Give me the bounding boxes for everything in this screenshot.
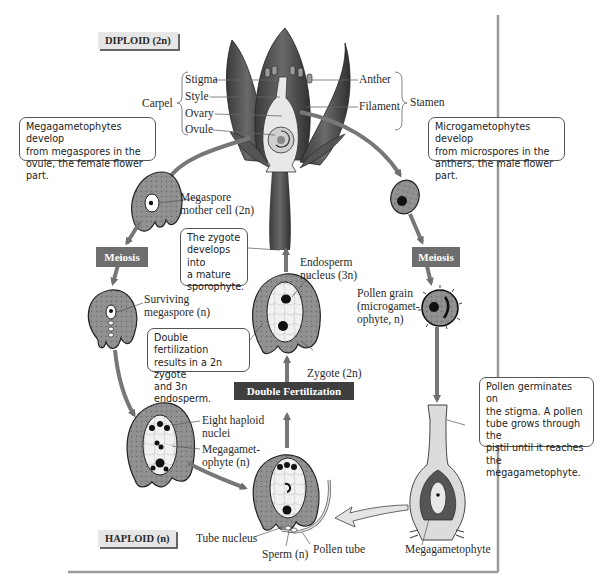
label-anther: Anther xyxy=(359,73,391,86)
label-endosperm-nucleus-2: nucleus (3n) xyxy=(300,269,357,282)
label-zygote: Zygote (2n) xyxy=(307,367,362,380)
label-eight-haploid-nuclei-2: nuclei xyxy=(202,427,230,440)
label-megaspore-mother-cell-2: mother cell (2n) xyxy=(180,204,254,217)
arrow-flower-to-ovule xyxy=(168,138,250,180)
label-megagametophyte-n-2: ophyte (n) xyxy=(202,456,250,469)
label-filament: Filament xyxy=(359,100,400,113)
double-fertilization-box: Double Fertilization xyxy=(234,382,354,400)
label-endosperm-nucleus-1: Endosperm xyxy=(300,256,352,269)
callout-megagametophytes: Megagametophytes develop from megaspores… xyxy=(19,117,156,161)
arrow-pistil-to-ovule xyxy=(335,505,408,527)
pistil-with-pollen-tube xyxy=(410,405,465,540)
label-eight-haploid-nuclei-1: Eight haploid xyxy=(202,414,264,427)
label-pollen-tube: Pollen tube xyxy=(313,543,365,556)
ovule-fertilization xyxy=(253,455,329,532)
life-cycle-artwork xyxy=(0,0,607,587)
label-surviving-megaspore-1: Surviving xyxy=(144,293,189,306)
label-pollen-grain-3: ophyte, n) xyxy=(357,313,404,326)
haploid-tag: HAPLOID (n) xyxy=(98,530,176,547)
meiosis-box-right: Meiosis xyxy=(412,247,460,267)
label-megaspore-mother-cell-1: Megaspore xyxy=(180,191,231,204)
diploid-tag: DIPLOID (2n) xyxy=(98,32,178,49)
label-ovary: Ovary xyxy=(185,107,214,120)
label-carpel: Carpel xyxy=(142,97,173,110)
label-stigma: Stigma xyxy=(185,73,218,86)
label-pollen-grain-1: Pollen grain xyxy=(357,287,413,300)
callout-microgametophytes: Microgametophytes develop from microspor… xyxy=(428,117,565,161)
label-surviving-megaspore-2: megaspore (n) xyxy=(144,306,210,319)
label-stamen: Stamen xyxy=(410,96,445,109)
label-sperm: Sperm (n) xyxy=(262,548,308,561)
pollen-grain xyxy=(418,285,462,329)
label-tube-nucleus: Tube nucleus xyxy=(196,532,257,545)
ovule-megagametophyte xyxy=(127,403,194,487)
label-megagametophyte: Megagametophyte xyxy=(405,543,491,556)
label-megagametophyte-n-1: Megagamet- xyxy=(202,443,260,456)
ovule-surviving-megaspore xyxy=(88,290,136,349)
ovule-zygote xyxy=(253,274,321,354)
label-pollen-grain-2: (microgamet- xyxy=(357,300,420,313)
callout-zygote-develops: The zygote develops into a mature sporop… xyxy=(180,228,248,286)
callout-double-fertilization: Double fertilization results in a 2n zyg… xyxy=(147,328,250,372)
callout-pollen-germinates: Pollen germinates on the stigma. A polle… xyxy=(479,377,594,447)
anther-cell xyxy=(387,177,423,217)
label-ovule: Ovule xyxy=(185,123,213,136)
label-style: Style xyxy=(185,90,209,103)
meiosis-box-left: Meiosis xyxy=(96,247,148,267)
